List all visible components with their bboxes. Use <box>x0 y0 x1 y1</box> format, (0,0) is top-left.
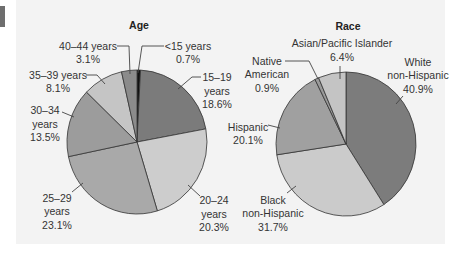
svg-text:American: American <box>245 68 290 80</box>
svg-text:<15 years: <15 years <box>165 40 211 52</box>
svg-text:years: years <box>44 205 70 217</box>
label-hispanic: Hispanic 20.1% <box>228 121 268 146</box>
race-pie-slices <box>276 72 416 216</box>
svg-text:White: White <box>405 56 432 68</box>
svg-text:15–19: 15–19 <box>202 71 231 83</box>
svg-text:20.3%: 20.3% <box>199 221 229 233</box>
label-20-24: 20–24 years 20.3% <box>199 194 229 233</box>
section-marker <box>0 6 5 27</box>
svg-text:years: years <box>201 208 227 220</box>
svg-text:30–34: 30–34 <box>30 104 59 116</box>
label-25-29: 25–29 years 23.1% <box>42 192 72 231</box>
svg-text:18.6%: 18.6% <box>202 98 232 110</box>
svg-text:6.4%: 6.4% <box>330 51 354 63</box>
svg-text:Black: Black <box>260 194 286 206</box>
svg-text:20–24: 20–24 <box>199 194 228 206</box>
svg-text:0.7%: 0.7% <box>176 53 200 65</box>
svg-text:23.1%: 23.1% <box>42 219 72 231</box>
svg-text:40–44 years: 40–44 years <box>59 40 117 52</box>
svg-text:3.1%: 3.1% <box>76 53 100 65</box>
age-chart-title: Age <box>129 19 149 31</box>
svg-text:31.7%: 31.7% <box>258 221 288 233</box>
label-30-34: 30–34 years 13.5% <box>30 104 60 143</box>
label-15-19: 15–19 years 18.6% <box>202 71 232 110</box>
race-chart-title: Race <box>335 20 360 32</box>
svg-text:35–39 years: 35–39 years <box>29 69 87 81</box>
svg-text:0.9%: 0.9% <box>255 82 279 94</box>
svg-text:8.1%: 8.1% <box>46 82 70 94</box>
svg-text:20.1%: 20.1% <box>233 134 263 146</box>
svg-text:Asian/Pacific Islander: Asian/Pacific Islander <box>292 37 393 49</box>
svg-text:Native: Native <box>252 55 282 67</box>
age-pie-slices <box>67 70 207 214</box>
svg-text:13.5%: 13.5% <box>30 131 60 143</box>
svg-text:years: years <box>204 85 230 97</box>
svg-text:25–29: 25–29 <box>42 192 71 204</box>
svg-text:non-Hispanic: non-Hispanic <box>387 69 448 81</box>
figure: Age <15 years 0.7% 15–19 years 18.6% 20–… <box>0 0 471 257</box>
svg-text:Hispanic: Hispanic <box>228 121 268 133</box>
svg-text:years: years <box>32 118 58 130</box>
svg-text:40.9%: 40.9% <box>403 83 433 95</box>
svg-text:non-Hispanic: non-Hispanic <box>242 207 303 219</box>
